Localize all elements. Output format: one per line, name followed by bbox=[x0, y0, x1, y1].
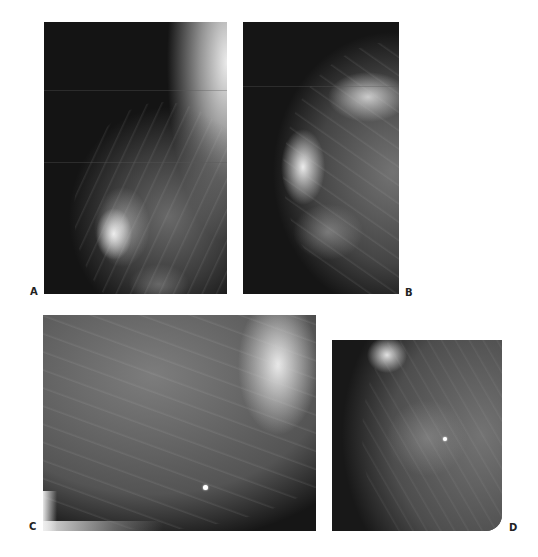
compression-plate-corner bbox=[43, 491, 57, 531]
panel-label-b: B bbox=[405, 288, 413, 298]
mammogram-panel-d bbox=[332, 340, 502, 531]
panel-label-d: D bbox=[509, 523, 517, 533]
fibroglandular-strands bbox=[43, 315, 316, 531]
scan-artifact-line bbox=[44, 90, 227, 91]
scan-artifact-line bbox=[243, 86, 399, 87]
marker-dot bbox=[203, 485, 208, 490]
panel-label-c: C bbox=[29, 522, 36, 532]
mammogram-panel-a bbox=[44, 22, 227, 294]
mammogram-panel-c bbox=[43, 315, 316, 531]
mammogram-panel-b bbox=[243, 22, 399, 294]
panel-label-a: A bbox=[30, 287, 38, 297]
compression-plate-edge bbox=[43, 521, 163, 531]
scan-artifact-line bbox=[44, 162, 227, 163]
marker-dot bbox=[443, 437, 447, 441]
